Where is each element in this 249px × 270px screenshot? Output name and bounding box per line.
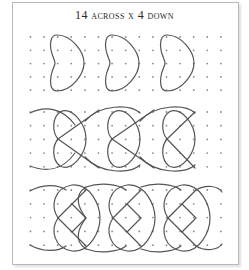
grid-dot [84,76,86,78]
grid-dot [98,189,100,191]
grid-dot [193,125,195,127]
grid-dot [125,36,127,38]
grid-dot [98,217,100,219]
grid-dot [220,63,222,65]
grid-dot [43,111,45,113]
heart-shape [161,35,194,91]
grid-dot [84,125,86,127]
grid-dot [138,203,140,205]
grid-dot [166,189,168,191]
grid-dot [70,189,72,191]
grid-dot [43,217,45,219]
grid-dot [70,89,72,91]
grid-dot [166,63,168,65]
grid-dot [166,244,168,246]
grid-dot [152,76,154,78]
grid-dot [220,152,222,154]
grid-dot [57,36,59,38]
loop-shape [54,185,100,251]
grid-dot [70,63,72,65]
grid-dot [57,49,59,51]
grid-dot [166,36,168,38]
grid-dot [193,36,195,38]
grid-dot [43,36,45,38]
grid-dot [206,76,208,78]
grid-dot [152,49,154,51]
grid-dot [111,76,113,78]
grid-dot [138,125,140,127]
grid-dot [206,125,208,127]
grid-dot [193,76,195,78]
grid-dot [220,231,222,233]
grid-dot [179,49,181,51]
grid-dot [166,203,168,205]
grid-dot [179,36,181,38]
grid-dot [30,139,32,141]
grid-dot [179,89,181,91]
grid-dot [206,217,208,219]
grid-dot [98,244,100,246]
grid-dot [125,125,127,127]
grid-dot [57,76,59,78]
grid-dot [98,89,100,91]
grid-dot [220,111,222,113]
grid-dot [152,189,154,191]
grid-dot [30,36,32,38]
grid-dot [125,63,127,65]
grid-dot [125,49,127,51]
grid-dot [138,231,140,233]
grid-dot [70,76,72,78]
grid-dot [220,217,222,219]
grid-dot [30,76,32,78]
grid-dot [43,189,45,191]
grid-dot [84,231,86,233]
grid-dot [220,76,222,78]
grid-dot [220,49,222,51]
grid-dot [43,166,45,168]
grid-dot [220,125,222,127]
section-linked-hearts [30,107,195,171]
grid-dot [70,139,72,141]
grid-dot [98,63,100,65]
grid-dot [43,49,45,51]
grid-dot [70,49,72,51]
grid-dot [30,217,32,219]
grid-dot [43,152,45,154]
grid-dot [57,189,59,191]
grid-dot [111,203,113,205]
grid-dot [30,231,32,233]
grid-dot [111,244,113,246]
grid-dot [152,63,154,65]
grid-dot [206,36,208,38]
grid-dot [193,49,195,51]
grid-dot [98,152,100,154]
grid-dot [43,76,45,78]
grid-dot [220,166,222,168]
grid-dot [193,189,195,191]
grid-dot [57,231,59,233]
grid-dot [111,36,113,38]
grid-dot [111,125,113,127]
grid-dot [70,244,72,246]
grid-dot [166,231,168,233]
grid-dot [166,152,168,154]
grid-dot [84,111,86,113]
grid-dot [43,203,45,205]
grid-dot [179,139,181,141]
grid-dot [166,125,168,127]
grid-dot [125,152,127,154]
grid-dot [152,152,154,154]
grid-dot [84,89,86,91]
grid-dot [152,89,154,91]
grid-dot [43,125,45,127]
grid-dot [84,203,86,205]
outer-arc [196,186,222,192]
grid-dot [179,63,181,65]
grid-dot [43,231,45,233]
grid-dot [193,152,195,154]
grid-dot [30,49,32,51]
grid-dot [220,139,222,141]
kolam-pattern-drawing [0,0,249,270]
grid-dot [57,63,59,65]
grid-dot [206,63,208,65]
